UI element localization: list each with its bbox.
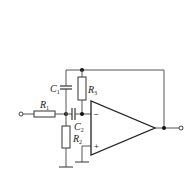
- circuit-diagram: R1 C1 R3 C2 R2 − +: [0, 0, 196, 180]
- resistor-r1: [34, 111, 55, 117]
- input-terminal: [19, 112, 23, 116]
- r3-label: R3: [87, 84, 97, 96]
- junction-node-output: [162, 126, 166, 130]
- output-terminal: [179, 126, 183, 130]
- resistor-r3: [78, 77, 86, 100]
- resistor-r2: [62, 126, 70, 148]
- junction-node-inverting: [80, 112, 84, 116]
- c2-label: C2: [74, 121, 84, 133]
- opamp-triangle: [91, 101, 155, 155]
- r1-label: R1: [39, 99, 49, 111]
- r2-label: R2: [72, 133, 82, 145]
- inverting-input-sign: −: [94, 110, 99, 119]
- c1-label: C1: [50, 83, 60, 95]
- noninverting-input-sign: +: [94, 142, 99, 151]
